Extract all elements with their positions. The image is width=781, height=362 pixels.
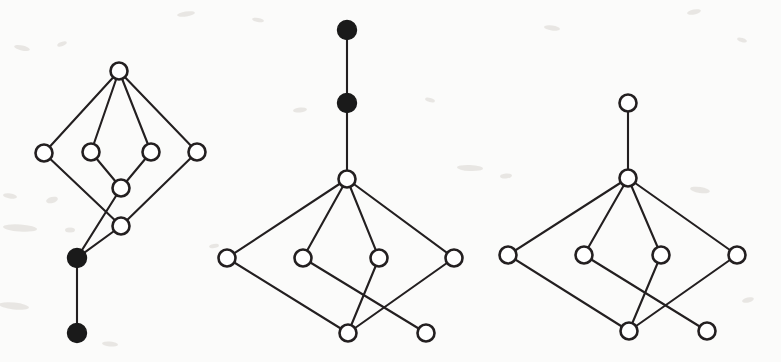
graph-layer: left-topleft-row-1left-row-2left-row-3le… [36,21,746,343]
filled-node: left-filled-upper [68,249,87,268]
graph-edge [44,153,121,226]
open-node: left-row-1 [36,145,53,162]
open-node: right-top [620,95,637,112]
paper-speck [102,341,118,347]
graph-edge [227,179,347,258]
paper-speck [252,17,265,23]
paper-speck [742,296,755,304]
graph-middle-nodes: mid-filled-topmid-filled-secondmid-hubmi… [219,21,463,342]
paper-speck [3,193,18,200]
graph-right-edges [508,103,737,331]
graph-right-nodes: right-topright-hubright-row-1right-row-2… [500,95,746,340]
graph-left: left-topleft-row-1left-row-2left-row-3le… [36,63,206,343]
open-node: right-row-1 [500,247,517,264]
paper-speck [544,25,560,32]
open-node: right-hub [620,170,637,187]
graph-edge [508,255,629,331]
graph-edge [119,71,197,152]
filled-node: left-filled-lower [68,324,87,343]
open-node: mid-row-4 [446,250,463,267]
graph-middle: mid-filled-topmid-filled-secondmid-hubmi… [219,21,463,342]
filled-node: mid-filled-second [338,94,357,113]
figure-container: left-topleft-row-1left-row-2left-row-3le… [0,0,781,362]
filled-node: mid-filled-top [338,21,357,40]
open-node: left-mid-upper [113,180,130,197]
graph-edge [119,71,151,152]
open-node: left-row-4 [189,144,206,161]
graph-edge [91,71,119,152]
paper-speck [690,185,711,194]
paper-speck [0,301,29,311]
graph-left-nodes: left-topleft-row-1left-row-2left-row-3le… [36,63,206,343]
graph-edge [227,258,348,333]
open-node: mid-bottom-1 [340,325,357,342]
graph-edge [121,152,197,226]
graph-edge [584,178,628,255]
paper-speck [293,107,307,113]
graph-edge [303,179,347,258]
open-node: right-row-3 [653,247,670,264]
open-node: mid-row-3 [371,250,388,267]
open-node: mid-row-1 [219,250,236,267]
open-node: mid-bottom-2 [418,325,435,342]
paper-speck [687,8,702,16]
open-node: mid-row-2 [295,250,312,267]
open-node: right-bottom-2 [699,323,716,340]
paper-speck [425,97,436,103]
paper-speck [177,10,196,17]
graph-left-edges [44,71,197,333]
paper-speck [65,228,75,233]
open-node: right-row-4 [729,247,746,264]
open-node: left-row-3 [143,144,160,161]
open-node: left-top [111,63,128,80]
diagram-canvas: left-topleft-row-1left-row-2left-row-3le… [0,0,781,362]
open-node: right-bottom-1 [621,323,638,340]
open-node: left-row-2 [83,144,100,161]
graph-edge [508,178,628,255]
paper-speck [3,223,37,232]
graph-right: right-topright-hubright-row-1right-row-2… [500,95,746,340]
paper-speck [57,40,68,47]
graph-edge [44,71,119,153]
open-node: right-row-2 [576,247,593,264]
paper-speck [737,37,748,44]
paper-speck [457,164,483,171]
paper-speck [209,243,220,249]
paper-speck [45,196,58,205]
open-node: left-mid-lower [113,218,130,235]
paper-speck [500,173,512,179]
open-node: mid-hub [339,171,356,188]
paper-speck [14,44,31,52]
